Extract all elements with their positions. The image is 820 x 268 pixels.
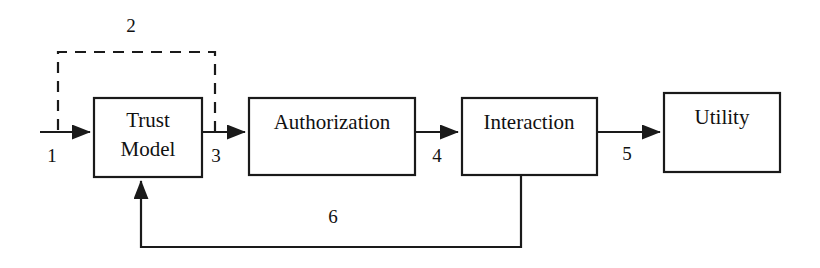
edge-3-label: 3 (211, 145, 221, 166)
utility-label: Utility (695, 105, 750, 129)
node-authorization: Authorization (249, 98, 415, 175)
edge-2-label: 2 (126, 15, 136, 36)
edge-3-trust-model-to-authorization: 3 (202, 132, 245, 166)
node-utility: Utility (664, 93, 780, 172)
block-diagram: 1 2 Trust Model 3 Authorization 4 (0, 0, 820, 268)
node-trust-model: Trust Model (94, 98, 202, 177)
interaction-label: Interaction (484, 110, 575, 134)
edge-1-label: 1 (47, 145, 57, 166)
edge-6-label: 6 (328, 206, 338, 227)
edge-6-interaction-to-trust-model-feedback: 6 (141, 175, 521, 247)
flow-diagram-svg: 1 2 Trust Model 3 Authorization 4 (0, 0, 820, 268)
edge-1-input-to-trust-model: 1 (40, 132, 90, 166)
trust-model-label-line1: Trust (126, 108, 170, 132)
node-interaction: Interaction (462, 98, 597, 175)
edge-5-label: 5 (622, 143, 632, 164)
trust-model-label-line2: Model (121, 137, 176, 161)
authorization-label: Authorization (274, 110, 391, 134)
edge-4-authorization-to-interaction: 4 (415, 132, 458, 166)
edge-5-interaction-to-utility: 5 (597, 132, 660, 164)
edge-4-label: 4 (432, 145, 442, 166)
